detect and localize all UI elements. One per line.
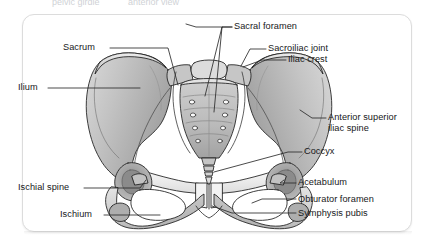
obturator-foramen-right: [233, 189, 288, 220]
ischial-tuberosity-left: [109, 203, 130, 221]
sacral-foramen-right-1: [223, 100, 228, 104]
ischial-spine-left: [132, 174, 148, 185]
leader-sacral-foramen-stem: [186, 24, 222, 27]
label-obturator-foramen: Obturator foramen: [298, 194, 374, 205]
figure-root: pelvic girdle anterior view: [0, 0, 434, 249]
sacral-foramen-right-4: [218, 139, 223, 143]
sacral-foramen-right-2: [222, 113, 227, 117]
sacral-foramen-left-2: [190, 113, 195, 117]
label-sacrum: Sacrum: [63, 42, 95, 53]
sacral-foramen-left-1: [189, 100, 194, 104]
sacral-foramen-left-4: [196, 139, 201, 143]
label-iliac-crest: Iliac crest: [288, 54, 327, 65]
label-coccyx: Coccyx: [304, 146, 334, 157]
label-ischium: Ischium: [60, 209, 92, 220]
label-acetabulum: Acetabulum: [298, 177, 347, 188]
lumbar-vertebra-body: [191, 60, 227, 80]
coccyx-segment-1: [202, 158, 216, 165]
sacral-foramen-left-3: [193, 126, 198, 130]
ilium-left-bone: [86, 53, 171, 180]
label-symphysis-pubis: Symphysis pubis: [298, 208, 368, 219]
label-ischial-spine: Ischial spine: [18, 182, 69, 193]
label-sacroiliac-joint: Sacroiliac joint: [268, 43, 328, 54]
ilium-right-bone: [247, 53, 332, 180]
sacral-foramen-right-3: [221, 126, 226, 130]
obturator-foramen-left: [131, 189, 186, 220]
label-ilium: Ilium: [18, 82, 38, 93]
coccyx-segment-3: [205, 172, 213, 176]
label-sacral-foramen: Sacral foramen: [234, 21, 297, 32]
coccyx-segment-2: [204, 166, 214, 171]
label-anterior-superior-iliac-spine: Anterior superior iliac spine: [328, 112, 412, 133]
